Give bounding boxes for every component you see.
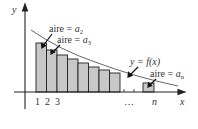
rectangles (36, 43, 154, 92)
x-axis-label: x (179, 96, 185, 107)
y-axis-label: y (11, 4, 17, 15)
area-label-an: aire = an (150, 68, 185, 80)
tick-label-ellipsis: … (124, 96, 134, 107)
tick-label-n: n (152, 96, 157, 107)
area-label-a3: aire = a3 (57, 34, 91, 46)
curve-label: y = f(x) (129, 56, 161, 68)
riemann-sum-diagram: y x 1 2 3 … n aire = a2 aire = a3 y = f(… (0, 0, 198, 129)
tick-label-1: 1 (35, 96, 40, 107)
tick-label-2: 2 (45, 96, 50, 107)
tick-label-3: 3 (55, 96, 60, 107)
